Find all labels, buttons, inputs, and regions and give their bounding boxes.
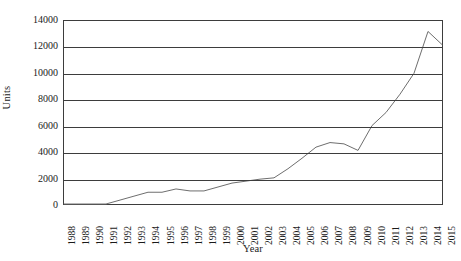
gridline-2000 [64,180,442,181]
x-tick-label: 2015 [447,226,457,245]
gridline-12000 [64,47,442,48]
y-tick-label: 10000 [33,68,58,78]
y-tick-label: 6000 [38,121,58,131]
series-line-units [64,21,442,204]
gridline-6000 [64,127,442,128]
y-axis-tick-labels: 02000400060008000100001200014000 [0,20,58,205]
y-tick-label: 14000 [33,15,58,25]
y-tick-label: 0 [53,200,58,210]
y-tick-label: 12000 [33,41,58,51]
line-chart-figure: Units 02000400060008000100001200014000 1… [0,0,461,261]
gridline-10000 [64,74,442,75]
gridline-4000 [64,153,442,154]
y-tick-label: 4000 [38,147,58,157]
y-tick-label: 2000 [38,174,58,184]
plot-area [63,20,443,205]
gridline-8000 [64,100,442,101]
y-tick-label: 8000 [38,94,58,104]
x-axis-title: Year [63,243,443,254]
